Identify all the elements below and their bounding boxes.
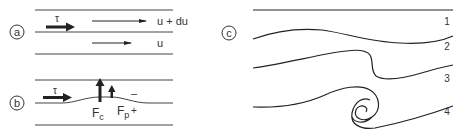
shear-stress-arrow-icon <box>43 93 72 102</box>
shear-stress-arrow-icon <box>46 23 75 32</box>
panel-b: b τ Fc Fp – + <box>10 78 173 125</box>
upper-velocity-label: u + du <box>157 15 188 27</box>
plus-sign: + <box>131 105 137 116</box>
force-c-arrow-icon <box>96 78 105 102</box>
force-c-label: Fc <box>92 106 104 122</box>
panel-c-label: c <box>226 27 232 39</box>
panel-a-label: a <box>14 26 21 38</box>
panel-c: c 1 2 3 4 <box>222 10 453 128</box>
force-p-label: Fp <box>117 104 129 120</box>
panel-a: a τ u + du u <box>10 10 188 54</box>
lower-velocity-label: u <box>157 37 163 49</box>
stage-4-interface <box>253 87 453 129</box>
stage-2-interface <box>253 29 453 43</box>
stage-label-4: 4 <box>444 106 450 117</box>
tau-label: τ <box>55 13 59 24</box>
stage-3-interface <box>253 50 453 79</box>
stage-label-1: 1 <box>444 16 450 27</box>
tau-label: τ <box>53 85 57 96</box>
kelvin-helmholtz-diagram: a τ u + du u b τ Fc Fp – + <box>0 0 463 134</box>
minus-sign: – <box>131 87 138 99</box>
panel-b-label: b <box>14 97 20 109</box>
stage-label-3: 3 <box>444 73 450 84</box>
force-p-arrow-icon <box>108 85 116 98</box>
stage-label-2: 2 <box>444 41 450 52</box>
